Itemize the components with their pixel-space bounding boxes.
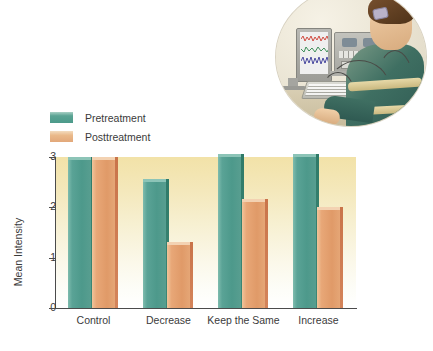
y-tick-mark [49, 308, 56, 309]
bar-side-edge [190, 242, 193, 308]
x-label-keep-the-same: Keep the Same [207, 314, 279, 326]
y-tick-mark [49, 157, 56, 158]
waveform-green-icon [301, 45, 328, 54]
amplifier-dial-left [342, 38, 357, 47]
bar-face [242, 202, 265, 308]
x-label-control: Control [77, 314, 111, 326]
legend-item-pretreatment: Pretreatment [50, 108, 150, 127]
legend-swatch-posttreatment [50, 131, 73, 142]
bar-face [317, 210, 340, 308]
legend-item-posttreatment: Posttreatment [50, 127, 150, 146]
computer-monitor-icon [296, 28, 332, 82]
waveform-blue-icon [301, 56, 328, 65]
bar-face [167, 245, 190, 308]
x-axis-line [55, 308, 357, 309]
legend-label-pretreatment: Pretreatment [85, 112, 146, 124]
y-tick-label: 0 [42, 301, 56, 313]
y-tick-mark [49, 258, 56, 259]
y-tick-label: 1 [42, 251, 56, 263]
monitor-screen [300, 32, 328, 74]
bar-increase-posttreatment [317, 210, 340, 308]
legend-label-posttreatment: Posttreatment [85, 131, 150, 143]
bar-keep-the-same-posttreatment [242, 202, 265, 308]
y-axis-line [55, 157, 56, 309]
y-tick-label: 2 [42, 200, 56, 212]
biofeedback-illustration [276, 0, 426, 126]
bar-chart: Mean Intensity 0123 ControlDecreaseKeep … [0, 150, 433, 351]
bar-decrease-pretreatment [143, 182, 166, 308]
legend-swatch-pretreatment [50, 112, 73, 123]
x-label-increase: Increase [298, 314, 338, 326]
bar-face [68, 160, 91, 308]
bar-increase-pretreatment [293, 157, 316, 308]
y-tick-label: 3 [42, 150, 56, 162]
bar-face [143, 182, 166, 308]
bar-decrease-posttreatment [167, 245, 190, 308]
chart-legend: Pretreatment Posttreatment [50, 108, 150, 146]
monitor-base [280, 86, 306, 90]
y-axis-title: Mean Intensity [12, 202, 24, 302]
bar-control-pretreatment [68, 160, 91, 308]
illustration-scene [276, 0, 426, 126]
bar-side-edge [265, 199, 268, 308]
bar-side-edge [340, 207, 343, 308]
y-tick-mark [49, 207, 56, 208]
x-label-decrease: Decrease [146, 314, 191, 326]
bar-side-edge [115, 157, 118, 308]
bar-face [218, 157, 241, 308]
bar-face [92, 160, 115, 308]
waveform-red-icon [301, 34, 328, 43]
bar-face [293, 157, 316, 308]
bar-control-posttreatment [92, 160, 115, 308]
bar-keep-the-same-pretreatment [218, 157, 241, 308]
